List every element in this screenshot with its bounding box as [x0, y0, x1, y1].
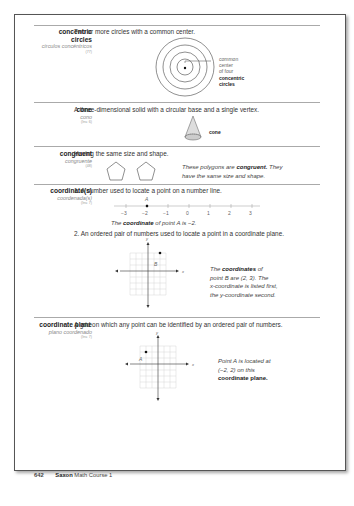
- divider: [34, 102, 320, 103]
- lesson-ref: (Inv. 7): [39, 335, 92, 340]
- label-line: concentric: [219, 75, 244, 81]
- caption-bold: coordinates: [222, 266, 256, 272]
- caption-text: x-coordinate is listed first,: [210, 282, 278, 291]
- divider: [34, 146, 320, 147]
- page-number: 642: [34, 472, 44, 478]
- spanish-term: círculos concéntricos: [42, 43, 92, 50]
- label-line: circles: [219, 81, 235, 87]
- caption-bold: congruent.: [236, 164, 267, 170]
- concentric-circles-figure: [155, 37, 215, 97]
- cone-figure: [183, 115, 203, 143]
- lesson-ref: (77): [42, 50, 92, 55]
- figure-label: cone: [209, 129, 221, 135]
- number-line-figure: [112, 196, 262, 220]
- figure-caption: These polygons are congruent. They have …: [182, 163, 282, 180]
- tick: 2: [228, 210, 231, 216]
- coordinate-plane-caption: Point A is located at (−2, 2) on this co…: [218, 357, 271, 383]
- lesson-ref: (48): [60, 164, 92, 169]
- caption-text: The: [210, 266, 222, 272]
- definition: Two or more circles with a common center…: [74, 28, 195, 35]
- definition: Having the same size and shape.: [74, 150, 169, 157]
- caption-bold: coordinate: [123, 220, 154, 226]
- caption-text: They: [267, 164, 282, 170]
- page-footer: 642 Saxon Math Course 1: [34, 472, 112, 478]
- axis-label-x: x: [192, 362, 194, 367]
- number-line-caption: The coordinate of point A is −2.: [111, 219, 196, 228]
- caption-text: of: [256, 266, 263, 272]
- point-label: A: [139, 356, 142, 362]
- figure-label: common center of four concentric circles: [219, 56, 244, 87]
- term-label: circles: [42, 36, 92, 44]
- caption-text: point B are (2, 3). The: [210, 274, 278, 283]
- axis-label-x: x: [182, 269, 184, 274]
- caption-bold: coordinate plane.: [218, 375, 268, 381]
- book-title-bold: Saxon: [55, 472, 72, 478]
- axis-label-y: y: [156, 330, 158, 335]
- definition: A grid on which any point can be identif…: [74, 321, 283, 328]
- congruent-pentagons-figure: [106, 161, 186, 183]
- caption-text: Point A is located at: [218, 357, 271, 366]
- tick: 1: [207, 210, 210, 216]
- tick: −1: [163, 210, 169, 216]
- coordinate-caption: The coordinates of point B are (2, 3). T…: [210, 265, 278, 299]
- divider: [34, 25, 320, 26]
- tick: 0: [186, 210, 189, 216]
- caption-text: of point A is −2.: [154, 220, 197, 226]
- caption-text: (−2, 2) on this: [218, 366, 271, 375]
- tick: 3: [249, 210, 252, 216]
- definition: A three-dimensional solid with a circula…: [74, 106, 259, 113]
- divider: [34, 184, 320, 185]
- caption-text: These polygons are: [182, 164, 236, 170]
- caption-text: have the same size and shape.: [182, 172, 282, 181]
- tick: −3: [121, 210, 127, 216]
- caption-text: The: [111, 220, 123, 226]
- lesson-ref: (Inv. 6): [77, 120, 92, 125]
- coordinate-grid-b-figure: [118, 241, 188, 307]
- point-label: A: [145, 196, 148, 202]
- point-label: B: [154, 261, 157, 267]
- coordinate-plane-figure: [128, 334, 198, 400]
- definition-item-1: 1. A number used to locate a point on a …: [74, 187, 222, 194]
- tick: −2: [142, 210, 148, 216]
- divider: [34, 317, 320, 318]
- caption-text: the y-coordinate second.: [210, 291, 278, 300]
- axis-label-y: y: [146, 236, 148, 241]
- definition-item-2: 2. An ordered pair of numbers used to lo…: [74, 230, 284, 237]
- book-title: Math Course 1: [73, 472, 113, 478]
- lesson-ref: (Inv. 7): [50, 201, 92, 206]
